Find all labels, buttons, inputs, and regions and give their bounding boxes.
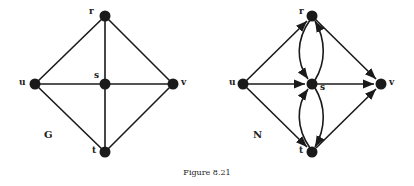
node-t <box>307 147 318 158</box>
node-s <box>100 79 111 90</box>
edge-u-t <box>35 84 105 152</box>
node-u <box>238 79 249 90</box>
label-g-v: v <box>181 77 186 87</box>
arc-t-v <box>316 89 376 148</box>
figure-caption: Figure 8.21 <box>0 168 414 177</box>
node-r <box>307 11 318 22</box>
node-u <box>30 79 41 90</box>
label-n-u: u <box>229 77 236 87</box>
arc-u-r <box>243 21 307 84</box>
label-g-u: u <box>19 77 26 87</box>
arc-s-r <box>315 21 323 80</box>
label-n-v: v <box>389 77 394 87</box>
edge-t-v <box>105 84 173 152</box>
graph-name-n: N <box>253 129 262 140</box>
node-r <box>100 11 111 22</box>
label-g-t: t <box>92 145 96 155</box>
node-v <box>168 79 179 90</box>
edge-r-v <box>105 16 173 84</box>
arc-t-s <box>299 89 310 148</box>
label-n-t: t <box>299 145 303 155</box>
arc-r-v <box>312 16 376 79</box>
graph-name-g: G <box>44 129 53 140</box>
label-n-r: r <box>299 6 304 16</box>
label-g-r: r <box>89 6 94 16</box>
node-t <box>100 147 111 158</box>
arc-s-t <box>315 88 323 147</box>
label-g-s: s <box>94 70 99 80</box>
label-n-s: s <box>320 82 325 92</box>
arc-r-s <box>299 20 310 79</box>
node-v <box>376 79 387 90</box>
node-s <box>307 79 318 90</box>
figure-canvas <box>0 0 414 186</box>
